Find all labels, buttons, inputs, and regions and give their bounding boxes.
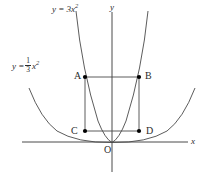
point-D-dot xyxy=(137,129,141,133)
point-label-A: A xyxy=(74,71,81,81)
curve-label-wide-parabola: y =13x2 xyxy=(12,57,39,74)
y-axis-label: y xyxy=(110,3,114,12)
point-C-dot xyxy=(83,129,87,133)
x-axis-label: x xyxy=(191,137,195,146)
curve-label-wide-fraction: 13 xyxy=(25,57,31,74)
origin-label-O: O xyxy=(104,145,111,155)
curve-label-narrow-parabola: y = 3x2 xyxy=(52,3,78,14)
curve-label-narrow-exponent: 2 xyxy=(75,2,78,9)
point-label-B: B xyxy=(145,71,152,81)
curve-label-wide-exponent: 2 xyxy=(36,59,39,66)
curve-label-wide-prefix: y = xyxy=(12,61,24,71)
math-diagram-figure: y = 3x2 y =13x2 A B C D O x y xyxy=(0,0,212,181)
point-label-D: D xyxy=(146,126,153,136)
fraction-denominator: 3 xyxy=(25,65,31,74)
point-label-C: C xyxy=(71,126,78,136)
fraction-numerator: 1 xyxy=(25,57,31,65)
point-A-dot xyxy=(83,75,87,79)
curve-label-narrow-y: y = 3x xyxy=(52,4,75,14)
point-B-dot xyxy=(137,75,141,79)
